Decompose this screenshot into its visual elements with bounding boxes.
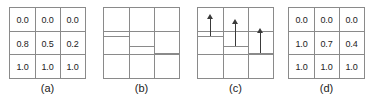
panel-b-row-1 (104, 31, 179, 55)
panel-a-cell-0-1: 0.0 (35, 8, 60, 32)
panel-c-row-2 (198, 55, 273, 79)
panel-d-vline-1 (314, 8, 315, 78)
panel-d-cell-1-1: 0.7 (314, 32, 339, 56)
panel-d-cell-0-2: 0.0 (339, 8, 364, 32)
panel-c-level-line-col-2 (248, 53, 273, 54)
panel-a-caption: (a) (9, 82, 86, 94)
panel-d-cell-1-2: 0.4 (339, 32, 364, 56)
panel-a-cell-1-0: 0.8 (10, 32, 35, 56)
panel-a-cell-0-2: 0.0 (60, 8, 85, 32)
panel-d-cell-2-0: 1.0 (289, 55, 314, 79)
panel-d-vline-2 (339, 8, 340, 78)
panel-c-vline-2 (248, 8, 249, 78)
panel-c-up-arrow-icon-1 (232, 19, 238, 24)
panel-d-grid: 0.0 0.0 0.0 1.0 0.7 0.4 1.0 1.0 1.0 (288, 7, 365, 79)
panel-c-level-line-col-0 (198, 36, 223, 37)
panel-a-vline-2 (60, 8, 61, 78)
panel-d-row-0: 0.0 0.0 0.0 (289, 8, 364, 32)
figure-panels-container: 0.0 0.0 0.0 0.8 0.5 0.2 1.0 1.0 1.0 (a) (0, 0, 369, 106)
panel-c-vline-1 (223, 8, 224, 78)
panel-c-up-arrow-icon-1-shaft (235, 23, 236, 46)
panel-a-row-0: 0.0 0.0 0.0 (10, 8, 85, 32)
panel-a-cell-2-2: 1.0 (60, 55, 85, 79)
panel-d-row-2: 1.0 1.0 1.0 (289, 55, 364, 79)
panel-d-row-1: 1.0 0.7 0.4 (289, 31, 364, 55)
panel-d-cell-0-0: 0.0 (289, 8, 314, 32)
panel-b-level-line-col-2 (154, 53, 179, 54)
panel-a-cell-2-1: 1.0 (35, 55, 60, 79)
panel-b-grid (103, 7, 180, 79)
panel-d-cell-0-1: 0.0 (314, 8, 339, 32)
panel-d-cell-2-2: 1.0 (339, 55, 364, 79)
panel-b-caption: (b) (103, 82, 180, 94)
panel-c-up-arrow-icon-0-shaft (210, 18, 211, 36)
panel-d-caption: (d) (288, 82, 365, 94)
panel-a-cell-0-0: 0.0 (10, 8, 35, 32)
panel-a-cell-1-2: 0.2 (60, 32, 85, 56)
panel-b-vline-2 (154, 8, 155, 78)
panel-a-cell-2-0: 1.0 (10, 55, 35, 79)
panel-a-vline-1 (35, 8, 36, 78)
panel-d-cell-1-0: 1.0 (289, 32, 314, 56)
panel-c-level-line-col-1 (223, 46, 248, 47)
panel-d-cell-2-1: 1.0 (314, 55, 339, 79)
panel-b-level-line-col-1 (129, 46, 154, 47)
panel-a-row-2: 1.0 1.0 1.0 (10, 55, 85, 79)
panel-c-grid (197, 7, 274, 79)
panel-a-row-1: 0.8 0.5 0.2 (10, 31, 85, 55)
panel-c-up-arrow-icon-0 (207, 14, 213, 19)
panel-c-up-arrow-icon-2-shaft (260, 32, 261, 53)
panel-b-vline-1 (129, 8, 130, 78)
panel-b-row-2 (104, 55, 179, 79)
panel-c-caption: (c) (197, 82, 274, 94)
panel-c-up-arrow-icon-2 (257, 28, 263, 33)
panel-b-row-0 (104, 8, 179, 32)
panel-b-level-line-col-0 (104, 36, 129, 37)
panel-a-cell-1-1: 0.5 (35, 32, 60, 56)
panel-a-grid: 0.0 0.0 0.0 0.8 0.5 0.2 1.0 1.0 1.0 (9, 7, 86, 79)
